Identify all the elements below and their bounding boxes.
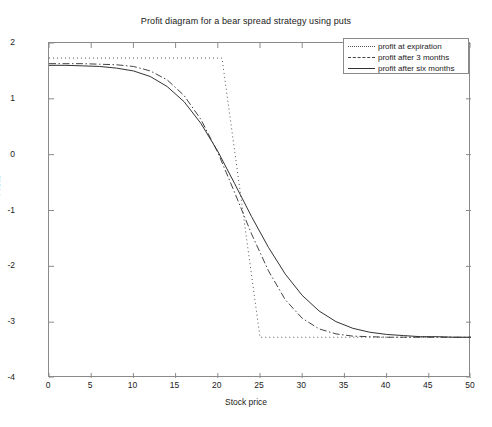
- legend-item[interactable]: profit at expiration: [344, 41, 468, 52]
- legend-item-label: profit after 3 months: [378, 53, 449, 62]
- x-tick-label: 20: [212, 380, 221, 390]
- legend-item[interactable]: profit after 3 months: [344, 52, 468, 63]
- tick-marks: [49, 43, 471, 378]
- x-tick-label: 0: [46, 380, 51, 390]
- y-axis-label: Profit: [0, 176, 2, 196]
- y-tick-label: -2: [7, 260, 15, 270]
- series-line: [49, 58, 471, 337]
- x-tick-label: 15: [170, 380, 179, 390]
- legend-item-label: profit at expiration: [378, 42, 442, 51]
- x-tick-label: 45: [423, 380, 432, 390]
- x-tick-label: 30: [296, 380, 305, 390]
- series-layer: [49, 43, 471, 378]
- x-tick-label: 5: [88, 380, 93, 390]
- series-line: [49, 64, 471, 338]
- plot-area: [48, 42, 470, 377]
- data-lines: [49, 58, 471, 337]
- y-tick-label: 0: [10, 149, 15, 159]
- legend-swatch-solid-icon: [344, 63, 378, 74]
- x-tick-label: 40: [381, 380, 390, 390]
- x-tick-label: 50: [465, 380, 474, 390]
- y-tick-label: -3: [7, 316, 15, 326]
- x-axis-label: Stock price: [0, 397, 492, 407]
- y-tick-label: 2: [10, 37, 15, 47]
- legend-swatch-dotted-icon: [344, 41, 378, 52]
- legend-box[interactable]: profit at expiration profit after 3 mont…: [343, 38, 469, 74]
- y-tick-label: -4: [7, 372, 15, 382]
- legend-item-label: profit after six months: [378, 64, 454, 73]
- series-line: [49, 65, 471, 337]
- legend-item[interactable]: profit after six months: [344, 63, 468, 74]
- y-tick-label: -1: [7, 205, 15, 215]
- chart-title: Profit diagram for a bear spread strateg…: [0, 16, 492, 26]
- y-tick-label: 1: [10, 93, 15, 103]
- legend-swatch-dashdot-icon: [344, 52, 378, 63]
- x-tick-label: 10: [128, 380, 137, 390]
- figure-canvas: Profit diagram for a bear spread strateg…: [0, 0, 492, 427]
- x-tick-label: 25: [254, 380, 263, 390]
- x-tick-label: 35: [339, 380, 348, 390]
